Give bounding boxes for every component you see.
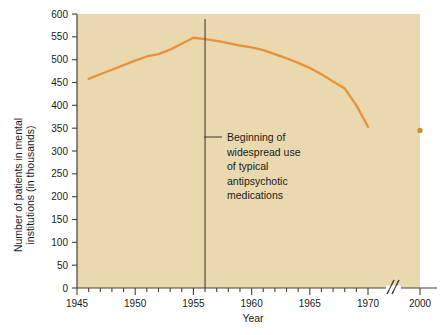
x-tick-label: 1950 <box>124 298 147 309</box>
y-tick-label: 250 <box>51 168 68 179</box>
isolated-data-point-marker <box>417 128 422 133</box>
y-tick-label: 600 <box>51 9 68 20</box>
y-tick-label: 150 <box>51 214 68 225</box>
x-tick-label: 1960 <box>240 298 263 309</box>
annotation-line: widespread use <box>226 146 301 158</box>
x-tick-label: 1945 <box>66 298 89 309</box>
y-tick-label: 50 <box>57 260 69 271</box>
y-axis-title-line1: Number of patients in mental <box>12 118 24 252</box>
y-tick-label: 550 <box>51 31 68 42</box>
x-axis-title: Year <box>242 312 264 324</box>
chart-container: 050100150200250300350400450500550600 194… <box>0 0 444 335</box>
y-tick-label: 500 <box>51 54 68 65</box>
x-tick-label: 1955 <box>182 298 205 309</box>
annotation-line: medications <box>227 189 283 201</box>
y-tick-label: 100 <box>51 237 68 248</box>
annotation-line: antipsychotic <box>227 175 288 187</box>
y-tick-label: 350 <box>51 123 68 134</box>
x-tick-label: 2000 <box>409 298 432 309</box>
line-chart: 050100150200250300350400450500550600 194… <box>0 0 444 335</box>
y-tick-label: 400 <box>51 100 68 111</box>
y-tick-label: 450 <box>51 77 68 88</box>
y-tick-label: 0 <box>62 283 68 294</box>
x-tick-label: 1965 <box>299 298 322 309</box>
x-tick-label: 1970 <box>357 298 380 309</box>
y-tick-label: 200 <box>51 191 68 202</box>
annotation-line: of typical <box>227 160 268 172</box>
y-tick-label: 300 <box>51 146 68 157</box>
annotation-line: Beginning of <box>227 131 285 143</box>
y-axis-title-line2: institutions (in thousands) <box>24 125 36 244</box>
isolated-data-point <box>417 128 422 133</box>
